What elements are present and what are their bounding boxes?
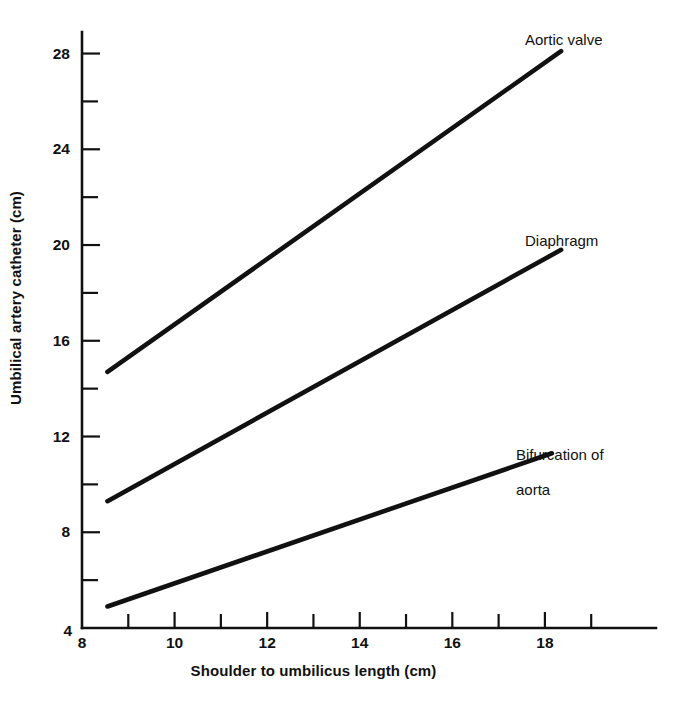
x-tick-label: 8: [62, 634, 102, 652]
series-line-aortic-valve: [107, 51, 561, 372]
x-tick-label: 14: [340, 634, 380, 652]
plot-area: [0, 0, 684, 706]
x-tick-label: 18: [525, 634, 565, 652]
series-label-bifurcation-line1: Bifurcation of: [516, 446, 604, 463]
x-axis-ticks: [128, 612, 591, 628]
y-tick-label: 20: [34, 236, 70, 254]
y-tick-label: 16: [34, 332, 70, 350]
y-axis-ticks: [82, 54, 100, 581]
y-tick-label: 8: [34, 523, 70, 541]
y-tick-label: 28: [34, 45, 70, 63]
y-tick-label: 12: [34, 428, 70, 446]
chart-figure: Umbilical artery catheter (cm) Shoulder …: [0, 0, 684, 706]
series-line-diaphragm: [107, 250, 561, 501]
series-label-diaphragm: Diaphragm: [525, 232, 598, 250]
y-tick-label: 24: [34, 140, 70, 158]
series-label-aortic-valve: Aortic valve: [525, 31, 603, 49]
series-line-bifurcation-of-aorta: [107, 453, 551, 606]
series-label-bifurcation-of-aorta: Bifurcation of aorta: [516, 428, 604, 499]
data-series: [107, 51, 561, 606]
x-tick-label: 16: [432, 634, 472, 652]
x-tick-label: 10: [155, 634, 195, 652]
x-tick-label: 12: [247, 634, 287, 652]
series-label-bifurcation-line2: aorta: [516, 481, 550, 498]
